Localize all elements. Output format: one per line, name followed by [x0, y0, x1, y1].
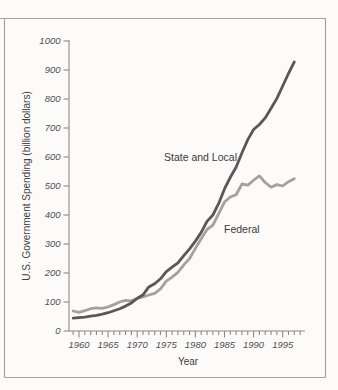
series-label-federal: Federal	[224, 223, 260, 235]
x-tick-label: 1970	[127, 339, 149, 350]
y-tick-label: 600	[45, 151, 62, 162]
y-axis-ticks: 01002003004005006007008009001000	[39, 35, 69, 336]
y-tick-label: 200	[44, 267, 62, 278]
x-tick-label: 1975	[156, 339, 178, 350]
x-tick-label: 1965	[98, 339, 120, 350]
x-tick-label: 1995	[272, 339, 294, 350]
y-axis-title: U.S. Government Spending (billion dollar…	[21, 91, 32, 281]
x-tick-label: 1980	[185, 339, 207, 350]
data-series	[73, 62, 294, 318]
y-tick-label: 300	[45, 238, 62, 249]
series-line-state-and-local	[73, 62, 294, 318]
y-tick-label: 0	[55, 325, 61, 336]
series-line-federal	[73, 176, 294, 313]
y-tick-label: 400	[45, 209, 62, 220]
x-axis-ticks: 19601965197019751980198519901995	[68, 331, 300, 350]
figure-canvas: 01002003004005006007008009001000 1960196…	[0, 0, 338, 390]
series-label-state-local: State and Local	[164, 151, 237, 163]
x-tick-label: 1960	[68, 339, 90, 350]
y-tick-label: 500	[45, 180, 62, 191]
x-axis-title: Year	[178, 356, 199, 367]
y-tick-label: 800	[45, 93, 62, 104]
spending-line-chart: 01002003004005006007008009001000 1960196…	[0, 0, 338, 390]
x-tick-label: 1985	[214, 339, 236, 350]
y-tick-label: 1000	[39, 35, 61, 46]
y-tick-label: 100	[45, 296, 62, 307]
y-tick-label: 900	[45, 64, 62, 75]
y-tick-label: 700	[45, 122, 62, 133]
x-tick-label: 1990	[243, 339, 265, 350]
